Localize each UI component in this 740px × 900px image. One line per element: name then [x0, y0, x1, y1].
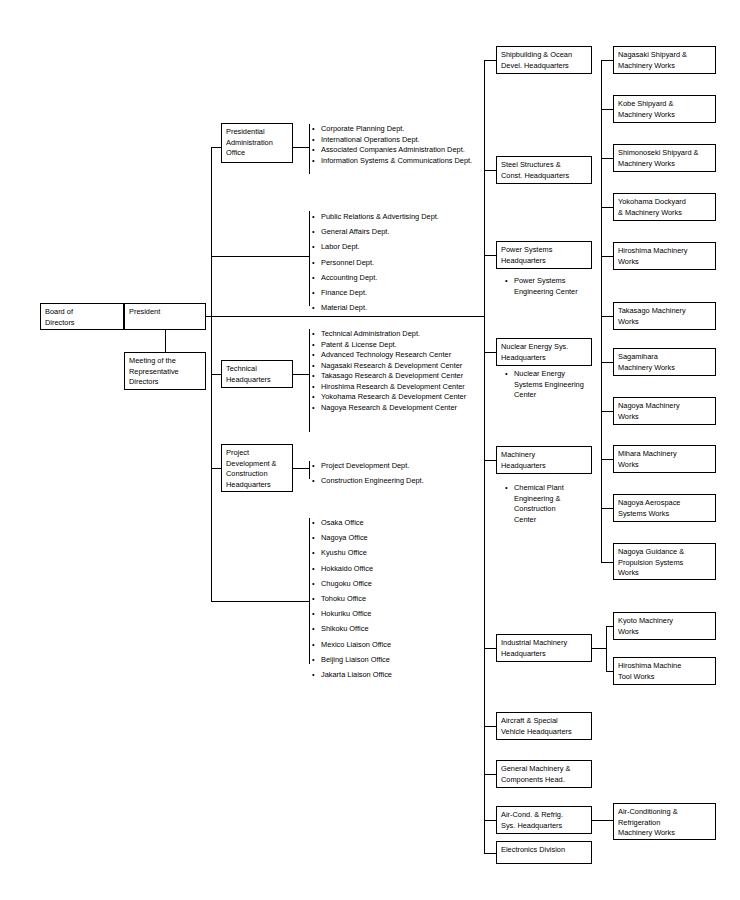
list-item: Takasago Research & Development Center	[312, 371, 502, 382]
list-nuclear-energy-center: Nuclear Energy Systems Engineering Cente…	[505, 369, 601, 401]
list-item: Shikoku Office	[312, 624, 472, 635]
list-item: Advanced Technology Research Center	[312, 350, 502, 361]
list-item: Construction Engineering Dept.	[312, 476, 492, 487]
list-item: Information Systems & Communications Dep…	[312, 156, 492, 167]
connector-works-nagoya-machinery	[601, 411, 613, 412]
connector-works-sagamihara	[601, 362, 613, 363]
box-machinery-headquarters[interactable]: Machinery Headquarters	[496, 446, 592, 474]
list-item: General Affairs Dept.	[312, 227, 492, 238]
box-power-systems-headquarters[interactable]: Power Systems Headquarters	[496, 241, 592, 269]
connector-presidential-office-depts	[293, 147, 309, 148]
connector-spine-electronics-division	[484, 853, 496, 854]
connector-spine-aircraft-hq	[484, 726, 496, 727]
connector-spine-corporate-depts	[211, 256, 309, 257]
list-item: Jakarta Liaison Office	[312, 670, 472, 681]
spine-offices	[309, 518, 310, 664]
box-board-of-directors[interactable]: Board of Directors	[40, 303, 124, 330]
spine-industrial-works-vertical	[606, 626, 607, 671]
spine-presidential-depts	[309, 124, 310, 174]
box-shimonoseki-shipyard-machinery-works[interactable]: Shimonoseki Shipyard & Machinery Works	[613, 144, 716, 172]
list-item: Power Systems Engineering Center	[505, 276, 601, 297]
box-meeting-representative-directors[interactable]: Meeting of the Representative Directors	[124, 352, 206, 390]
connector-works-yokohama	[601, 207, 613, 208]
box-air-cond-refrig-sys-headquarters[interactable]: Air-Cond. & Refrig. Sys. Headquarters	[496, 806, 592, 834]
list-item: Project Development Dept.	[312, 461, 492, 472]
list-item: Patent & License Dept.	[312, 340, 502, 351]
connector-spine-offices	[211, 601, 309, 602]
box-aircraft-special-vehicle-headquarters[interactable]: Aircraft & Special Vehicle Headquarters	[496, 712, 592, 740]
box-hiroshima-machine-tool-works[interactable]: Hiroshima Machine Tool Works	[613, 657, 716, 685]
connector-spine-project-hq	[211, 468, 221, 469]
list-item: Nagoya Office	[312, 533, 472, 544]
spine-works-vertical	[601, 60, 602, 562]
list-item: Mexico Liaison Office	[312, 640, 472, 651]
connector-spine-general-machinery-hq	[484, 774, 496, 775]
connector-works-nagoya-guidance	[601, 562, 613, 563]
connector-spine-industrial-machinery-hq	[484, 648, 496, 649]
spine-corporate-depts	[309, 211, 310, 306]
box-steel-structures-const-headquarters[interactable]: Steel Structures & Const. Headquarters	[496, 156, 592, 184]
connector-spine-shipbuilding-hq	[484, 60, 496, 61]
list-item: Nagoya Research & Development Center	[312, 403, 502, 414]
list-item: Public Relations & Advertising Dept.	[312, 212, 492, 223]
connector-works-takasago	[601, 316, 613, 317]
box-kyoto-machinery-works[interactable]: Kyoto Machinery Works	[613, 612, 716, 640]
list-item: Corporate Planning Dept.	[312, 124, 492, 135]
box-nagasaki-shipyard-machinery-works[interactable]: Nagasaki Shipyard & Machinery Works	[613, 46, 716, 74]
connector-aircond-hq-works	[592, 820, 613, 821]
box-nuclear-energy-systems-headquarters[interactable]: Nuclear Energy Sys. Headquarters	[496, 338, 592, 366]
connector-works-nagasaki	[601, 60, 613, 61]
box-presidential-administration-office[interactable]: Presidential Administration Office	[221, 123, 293, 163]
box-takasago-machinery-works[interactable]: Takasago Machinery Works	[613, 302, 716, 330]
list-item: Personnel Dept.	[312, 258, 492, 269]
box-industrial-machinery-headquarters[interactable]: Industrial Machinery Headquarters	[496, 634, 592, 662]
spine-technical-depts	[309, 329, 310, 432]
list-item: Labor Dept.	[312, 242, 492, 253]
connector-works-nagoya-aerospace	[601, 508, 613, 509]
box-sagamihara-machinery-works[interactable]: Sagamihara Machinery Works	[613, 348, 716, 376]
list-corporate-depts: Public Relations & Advertising Dept. Gen…	[312, 212, 492, 318]
box-project-development-construction-headquarters[interactable]: Project Development & Construction Headq…	[221, 444, 293, 492]
box-nagoya-machinery-works[interactable]: Nagoya Machinery Works	[613, 397, 716, 425]
box-yokohama-dockyard-machinery-works[interactable]: Yokohama Dockyard & Machinery Works	[613, 193, 716, 221]
connector-works-hiroshima	[601, 256, 613, 257]
box-electronics-division[interactable]: Electronics Division	[496, 841, 592, 864]
box-general-machinery-components-head[interactable]: General Machinery & Components Head.	[496, 760, 592, 788]
list-item: Hokuriku Office	[312, 609, 472, 620]
connector-technical-hq-depts	[293, 374, 309, 375]
connector-works-mihara	[601, 459, 613, 460]
list-item: Technical Administration Dept.	[312, 329, 502, 340]
list-power-systems-center: Power Systems Engineering Center	[505, 276, 601, 297]
box-shipbuilding-ocean-development-headquarters[interactable]: Shipbuilding & Ocean Devel. Headquarters	[496, 46, 592, 74]
list-item: Hiroshima Research & Development Center	[312, 382, 502, 393]
list-technical-depts: Technical Administration Dept. Patent & …	[312, 329, 502, 413]
box-president[interactable]: President	[124, 303, 206, 330]
connector-spine-presidential-office	[211, 147, 221, 148]
connector-spine-steel-structures-hq	[484, 170, 496, 171]
box-hiroshima-machinery-works[interactable]: Hiroshima Machinery Works	[613, 242, 716, 270]
list-item: Tohoku Office	[312, 594, 472, 605]
list-project-depts: Project Development Dept. Construction E…	[312, 461, 492, 490]
box-nagoya-guidance-propulsion-systems-works[interactable]: Nagoya Guidance & Propulsion Systems Wor…	[613, 543, 716, 580]
box-air-conditioning-refrigeration-machinery-works[interactable]: Air-Conditioning & Refrigeration Machine…	[613, 803, 716, 840]
connector-works-kobe	[601, 109, 613, 110]
connector-works-kyoto	[606, 626, 613, 627]
list-item: Chugoku Office	[312, 579, 472, 590]
box-kobe-shipyard-machinery-works[interactable]: Kobe Shipyard & Machinery Works	[613, 95, 716, 123]
list-item: Chemical Plant Engineering & Constructio…	[505, 483, 601, 525]
list-item: Hokkaido Office	[312, 564, 472, 575]
box-nagoya-aerospace-systems-works[interactable]: Nagoya Aerospace Systems Works	[613, 494, 716, 522]
list-item: Beijing Liaison Office	[312, 655, 472, 666]
list-item: International Operations Dept.	[312, 135, 492, 146]
connector-president-meeting	[165, 330, 166, 352]
list-item: Nuclear Energy Systems Engineering Cente…	[505, 369, 601, 401]
box-technical-headquarters[interactable]: Technical Headquarters	[221, 360, 293, 388]
list-item: Yokohama Research & Development Center	[312, 392, 502, 403]
list-presidential-depts: Corporate Planning Dept. International O…	[312, 124, 492, 166]
spine-project-depts	[309, 461, 310, 479]
box-mihara-machinery-works[interactable]: Mihara Machinery Works	[613, 445, 716, 473]
list-item: Nagasaki Research & Development Center	[312, 361, 502, 372]
list-item: Material Dept.	[312, 303, 492, 314]
list-item: Finance Dept.	[312, 288, 492, 299]
org-chart-canvas: Board of Directors President Meeting of …	[0, 0, 740, 900]
